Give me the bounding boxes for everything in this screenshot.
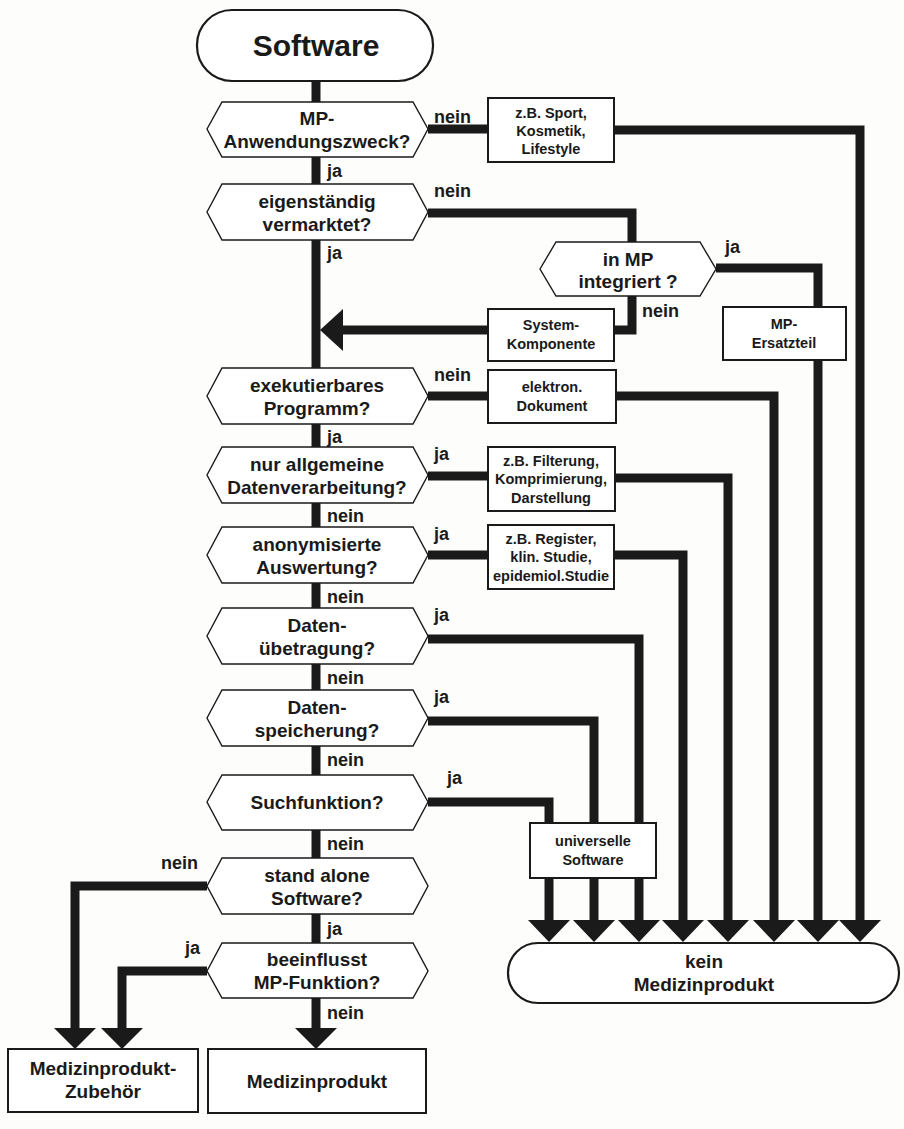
- decision-text: exekutierbares: [250, 375, 384, 396]
- line-d2-to-d3: [428, 213, 632, 242]
- note-text: Komprimierung,: [495, 471, 607, 487]
- decision-text: vermarktet?: [263, 214, 372, 235]
- label-d7-right: ja: [433, 605, 450, 625]
- arrowhead-kein-7: [797, 920, 839, 942]
- decision-text: nur allgemeine: [250, 454, 384, 475]
- label-d3-right: ja: [724, 237, 741, 257]
- arrowhead-kein-5: [707, 920, 749, 942]
- label-d10-down: ja: [326, 919, 343, 939]
- label-d5-right: ja: [433, 444, 450, 464]
- decision-in-mp-integriert: in MP integriert ?: [540, 242, 716, 296]
- arrowhead-accessory-2: [101, 1028, 143, 1049]
- outcome-text: Medizinprodukt: [247, 1071, 388, 1092]
- outcome-medizinprodukt: Medizinprodukt: [208, 1049, 426, 1113]
- arrowhead-accessory-1: [54, 1028, 96, 1049]
- outcome-text: Medizinprodukt: [634, 974, 775, 995]
- arrowhead-kein-8: [839, 920, 881, 942]
- decision-text: in MP: [603, 249, 654, 270]
- label-d4-down: ja: [326, 427, 343, 447]
- start-terminal: Software: [197, 10, 433, 81]
- note-text: epidemiol.Studie: [493, 568, 609, 584]
- line-d7-to-universelle: [428, 639, 639, 823]
- arrowhead-kein-6: [753, 920, 795, 942]
- decision-text: MP-: [300, 108, 335, 129]
- arrowhead-kein-2: [573, 920, 615, 942]
- line-d11-to-accessory: [122, 971, 207, 1030]
- note-universelle-software: universelle Software: [530, 823, 656, 878]
- decision-anonymisierte-auswertung: anonymisierte Auswertung?: [207, 527, 428, 583]
- outcome-text: kein: [685, 951, 723, 972]
- note-text: elektron.: [522, 379, 582, 395]
- decision-text: anonymisierte: [253, 534, 382, 555]
- outcome-medizinprodukt-zubehoer: Medizinprodukt- Zubehör: [8, 1049, 198, 1112]
- line-d9-to-universelle: [428, 802, 549, 823]
- label-d1-down: ja: [326, 161, 343, 181]
- label-d3-down: nein: [642, 301, 679, 321]
- decision-text: Software?: [271, 888, 363, 909]
- start-label: Software: [253, 29, 380, 62]
- note-text: System-: [523, 317, 580, 333]
- label-d8-right: ja: [433, 687, 450, 707]
- label-d2-right: nein: [434, 181, 471, 201]
- decision-text: speicherung?: [255, 720, 380, 741]
- decision-text: MP-Funktion?: [254, 972, 381, 993]
- flow-lines: [54, 81, 881, 1049]
- note-text: z.B. Register,: [505, 531, 596, 547]
- decision-text: Programm?: [264, 398, 371, 419]
- label-d7-down: nein: [327, 668, 364, 688]
- label-d6-down: nein: [327, 587, 364, 607]
- label-d9-right: ja: [446, 768, 463, 788]
- note-text: klin. Studie,: [510, 549, 591, 565]
- label-d11-left: ja: [184, 938, 201, 958]
- decision-datenspeicherung: Daten- speicherung?: [207, 690, 428, 746]
- arrowhead-kein-1: [528, 920, 570, 942]
- arrowhead-back-to-spine: [320, 309, 343, 351]
- line-d3-to-systemkomponente: [614, 296, 632, 330]
- note-filterung: z.B. Filterung, Komprimierung, Darstellu…: [488, 447, 615, 511]
- label-d9-down: nein: [327, 834, 364, 854]
- arrowhead-kein-3: [618, 920, 660, 942]
- note-register: z.B. Register, klin. Studie, epidemiol.S…: [488, 525, 614, 589]
- label-d1-right: nein: [434, 107, 471, 127]
- label-d10-left: nein: [161, 853, 198, 873]
- note-text: MP-: [771, 316, 798, 332]
- label-d4-right: nein: [434, 365, 471, 385]
- label-d5-down: nein: [327, 506, 364, 526]
- note-systemkomponente: System- Komponente: [488, 309, 614, 361]
- decision-beeinflusst-mp-funktion: beeinflusst MP-Funktion?: [207, 943, 428, 998]
- label-d11-down: nein: [327, 1003, 364, 1023]
- note-dokument: elektron. Dokument: [488, 370, 616, 423]
- label-d2-down: ja: [326, 243, 343, 263]
- note-text: z.B. Sport,: [515, 105, 587, 121]
- decision-text: Auswertung?: [256, 557, 377, 578]
- decision-suchfunktion: Suchfunktion?: [207, 775, 428, 830]
- decision-eigenstaendig-vermarktet: eigenständig vermarktet?: [207, 184, 428, 240]
- decision-text: Daten-: [287, 615, 346, 636]
- note-text: Komponente: [507, 336, 596, 352]
- decision-text: Suchfunktion?: [251, 792, 384, 813]
- decision-text: stand alone: [264, 865, 370, 886]
- arrowhead-device: [295, 1028, 337, 1049]
- note-text: Ersatzteil: [752, 335, 816, 351]
- decision-text: eigenständig: [258, 191, 375, 212]
- label-d6-right: ja: [433, 524, 450, 544]
- outcome-kein-medizinprodukt: kein Medizinprodukt: [508, 943, 899, 1003]
- decision-text: integriert ?: [578, 271, 677, 292]
- decision-text: Anwendungszweck?: [224, 131, 411, 152]
- decision-text: Daten-: [287, 697, 346, 718]
- decision-text: Datenverarbeitung?: [227, 477, 406, 498]
- line-d10-to-accessory: [75, 886, 207, 1030]
- decision-mp-anwendungszweck: MP- Anwendungszweck?: [207, 102, 428, 157]
- decision-text: übetragung?: [259, 638, 375, 659]
- note-lifestyle: z.B. Sport, Kosmetik, Lifestyle: [488, 98, 614, 162]
- decision-stand-alone-software: stand alone Software?: [207, 858, 428, 914]
- note-text: z.B. Filterung,: [503, 453, 599, 469]
- decision-text: beeinflusst: [267, 949, 368, 970]
- note-text: Darstellung: [511, 490, 591, 506]
- outcome-text: Zubehör: [65, 1081, 142, 1102]
- arrowhead-kein-4: [662, 920, 704, 942]
- line-d3-to-ersatzteil: [716, 268, 818, 307]
- note-text: Dokument: [517, 398, 588, 414]
- note-text: Lifestyle: [522, 141, 581, 157]
- software-classification-flowchart: Software MP- Anwendungszweck? eigenständ…: [0, 0, 904, 1129]
